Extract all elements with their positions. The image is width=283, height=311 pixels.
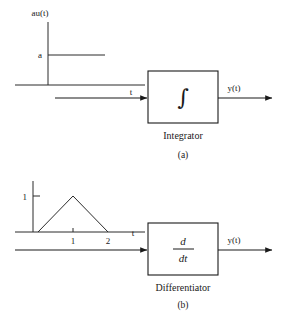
- block-diagram-figure: au(t) a t ∫ y(t) Integrator (a): [0, 0, 283, 311]
- integral-sign-icon: ∫: [177, 85, 189, 110]
- panel-b-y-tick-label-1: 1: [23, 192, 28, 202]
- panel-a-input-plot: au(t) a t: [15, 8, 145, 97]
- derivative-numerator: d: [180, 235, 186, 247]
- panel-a-amplitude-tick-label: a: [38, 50, 42, 60]
- panel-b-differentiator: 1 1 2 t d dt y(t) Differentiator (b): [15, 181, 272, 311]
- panel-b-triangle-waveform: [38, 196, 108, 232]
- panel-b-figure-caption: (b): [177, 300, 188, 311]
- panel-a-output-label: y(t): [228, 83, 241, 93]
- panel-b-output-label: y(t): [228, 235, 241, 245]
- panel-a-signal-label: au(t): [32, 8, 49, 18]
- panel-b-block-caption: Differentiator: [156, 282, 211, 293]
- figure-canvas: au(t) a t ∫ y(t) Integrator (a): [0, 0, 283, 311]
- panel-b-x-tick-label-2: 2: [106, 236, 111, 246]
- panel-a-x-axis-label: t: [130, 87, 133, 97]
- panel-b-input-plot: 1 1 2 t: [15, 181, 145, 246]
- derivative-denominator: dt: [179, 252, 189, 264]
- panel-a-integrator: au(t) a t ∫ y(t) Integrator (a): [15, 8, 272, 161]
- panel-a-figure-caption: (a): [178, 150, 189, 161]
- panel-b-x-tick-label-1: 1: [71, 236, 76, 246]
- panel-b-x-axis-label: t: [132, 228, 135, 238]
- panel-a-block-caption: Integrator: [163, 130, 203, 141]
